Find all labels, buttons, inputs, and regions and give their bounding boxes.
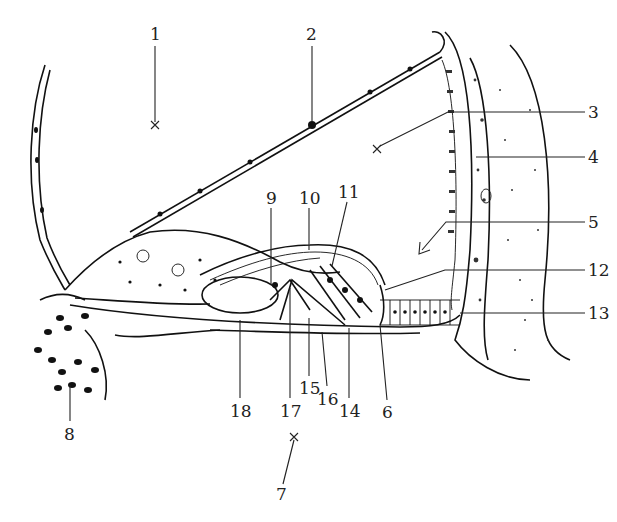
label-1: 1 — [150, 24, 161, 44]
label-10: 10 — [299, 188, 321, 208]
inner-sulcus — [202, 277, 278, 313]
cochlear-duct-diagram: 1 2 3 4 5 6 7 8 9 10 11 12 13 14 15 16 1… — [0, 0, 617, 522]
x-marker-icon — [290, 433, 298, 441]
label-2: 2 — [306, 24, 317, 44]
label-16: 16 — [317, 389, 339, 409]
label-leaders — [70, 46, 585, 484]
label-12: 12 — [588, 260, 610, 280]
x-marker-icon — [151, 121, 159, 129]
ganglion-cells — [34, 313, 99, 393]
tectorial-membrane — [200, 245, 385, 285]
label-8: 8 — [64, 424, 75, 444]
label-6: 6 — [382, 402, 393, 422]
label-17: 17 — [280, 401, 302, 421]
arrow-head-icon — [419, 242, 430, 254]
label-18: 18 — [230, 401, 252, 421]
label-numbers: 1 2 3 4 5 6 7 8 9 10 11 12 13 14 15 16 1… — [64, 24, 610, 504]
label-7: 7 — [276, 484, 287, 504]
label-13: 13 — [588, 303, 610, 323]
label-3: 3 — [588, 102, 599, 122]
left-bony-wall — [31, 65, 70, 290]
x-marker-icon — [373, 145, 381, 153]
basilar-membrane — [70, 300, 460, 334]
label-14: 14 — [339, 401, 361, 421]
vestibular-membrane — [130, 52, 442, 237]
lateral-wall — [432, 32, 570, 380]
label-4: 4 — [588, 147, 599, 167]
label-5: 5 — [588, 212, 599, 232]
label-9: 9 — [266, 188, 277, 208]
label-11: 11 — [338, 182, 360, 202]
spiral-ganglion — [34, 294, 220, 400]
